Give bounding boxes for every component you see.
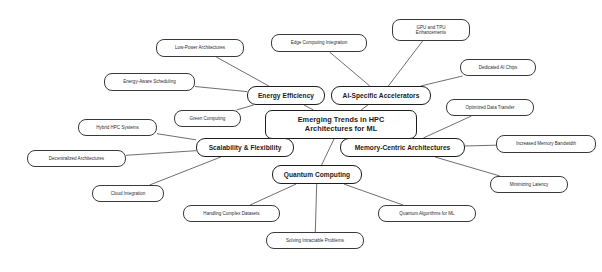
leaf-node-cloud-integration-label: Cloud Integration <box>111 191 146 196</box>
branch-node-quantum-computing-label: Quantum Computing <box>284 171 350 178</box>
connector-line <box>344 184 403 205</box>
leaf-node-gpu-and-tpu-enhancements-label: GPU and TPU Enhancements <box>416 25 446 35</box>
branch-node-energy-efficiency[interactable]: Energy Efficiency <box>247 86 325 105</box>
connector-line <box>250 184 296 205</box>
connector-line <box>421 76 463 86</box>
leaf-node-gpu-and-tpu-enhancements[interactable]: GPU and TPU Enhancements <box>392 19 470 41</box>
leaf-node-dedicated-ai-chips[interactable]: Dedicated AI Chips <box>460 59 536 76</box>
leaf-node-quantum-algorithms-for-ml-label: Quantum Algorithms for ML <box>399 211 454 216</box>
leaf-node-energy-aware-scheduling-label: Energy-Aware Scheduling <box>123 79 175 84</box>
leaf-node-hybrid-hpc-systems-label: Hybrid HPC Systems <box>96 125 139 130</box>
leaf-node-optimized-data-transfer[interactable]: Optimized Data Transfer <box>446 99 534 116</box>
leaf-node-solving-intractable-problems-label: Solving Intractable Problems <box>286 238 344 243</box>
leaf-node-quantum-algorithms-for-ml[interactable]: Quantum Algorithms for ML <box>378 205 476 222</box>
mindmap-canvas: Emerging Trends in HPC Architectures for… <box>0 0 602 272</box>
branch-node-ai-specific-accelerators-label: AI-Specific Accelerators <box>343 92 420 99</box>
branch-node-memory-centric-architectures[interactable]: Memory-Centric Architectures <box>340 138 465 157</box>
connector-line <box>150 157 221 185</box>
connector-line <box>315 184 316 232</box>
leaf-node-increased-memory-bandwidth[interactable]: Increased Memory Bandwidth <box>496 135 596 153</box>
leaf-node-edge-computing-integration-label: Edge Computing Integration <box>291 40 348 45</box>
connector-line <box>465 145 496 146</box>
connector-line <box>423 116 471 138</box>
leaf-node-energy-aware-scheduling[interactable]: Energy-Aware Scheduling <box>104 73 195 91</box>
leaf-node-edge-computing-integration[interactable]: Edge Computing Integration <box>271 34 367 52</box>
leaf-node-low-power-architectures-label: Low-Power Architectures <box>175 45 225 50</box>
leaf-node-green-computing[interactable]: Green Computing <box>174 110 241 127</box>
leaf-node-low-power-architectures[interactable]: Low-Power Architectures <box>156 39 244 57</box>
branch-node-quantum-computing[interactable]: Quantum Computing <box>272 165 362 184</box>
leaf-node-decentralized-architectures-label: Decentralized Architectures <box>49 156 104 161</box>
leaf-node-minimizing-latency[interactable]: Minimizing Latency <box>490 176 568 193</box>
leaf-node-handling-complex-datasets[interactable]: Handling Complex Datasets <box>183 205 280 222</box>
branch-node-memory-centric-architectures-label: Memory-Centric Architectures <box>355 144 451 151</box>
branch-node-scalability-flexibility-label: Scalability & Flexibility <box>209 144 282 151</box>
central-topic-node-label: Emerging Trends in HPC Architectures for… <box>298 116 385 132</box>
leaf-node-hybrid-hpc-systems[interactable]: Hybrid HPC Systems <box>78 119 157 136</box>
leaf-node-green-computing-label: Green Computing <box>190 116 226 121</box>
branch-node-scalability-flexibility[interactable]: Scalability & Flexibility <box>196 138 294 157</box>
leaf-node-increased-memory-bandwidth-label: Increased Memory Bandwidth <box>516 141 576 146</box>
connector-line <box>216 57 268 86</box>
connector-line <box>330 52 370 86</box>
connector-line <box>388 41 422 86</box>
connector-line <box>157 134 196 140</box>
branch-node-energy-efficiency-label: Energy Efficiency <box>258 92 314 99</box>
leaf-node-decentralized-architectures[interactable]: Decentralized Architectures <box>27 150 126 167</box>
connector-line <box>195 87 247 92</box>
connector-line <box>237 105 254 110</box>
leaf-node-handling-complex-datasets-label: Handling Complex Datasets <box>203 211 259 216</box>
leaf-node-cloud-integration[interactable]: Cloud Integration <box>92 185 164 202</box>
leaf-node-dedicated-ai-chips-label: Dedicated AI Chips <box>479 65 518 70</box>
branch-node-ai-specific-accelerators[interactable]: AI-Specific Accelerators <box>331 86 431 105</box>
connector-line <box>435 157 500 176</box>
leaf-node-optimized-data-transfer-label: Optimized Data Transfer <box>465 105 514 110</box>
leaf-node-minimizing-latency-label: Minimizing Latency <box>510 182 549 187</box>
connector-line <box>322 139 334 165</box>
connector-line <box>126 151 196 156</box>
leaf-node-solving-intractable-problems[interactable]: Solving Intractable Problems <box>266 232 364 249</box>
central-topic-node[interactable]: Emerging Trends in HPC Architectures for… <box>265 110 417 139</box>
